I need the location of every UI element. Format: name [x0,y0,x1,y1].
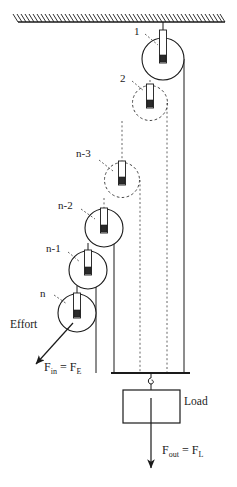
pulley-n-3-leader-line [99,160,113,171]
pulley-n-3-axle-hub [119,177,125,184]
force-in-equals: = F [57,360,76,374]
force-out-equals: = F [179,443,198,457]
effort-force-arrow [36,323,73,364]
effort-label: Effort [10,319,37,331]
pulley-diagram-figure: 1 2 n-3 n-2 n-1 n Effort Fin = FE Load F… [0,0,237,487]
force-e-subscript: E [76,367,81,376]
ceiling-hatching [13,14,225,22]
pulley-system-diagram [0,0,237,487]
pulley-label-2: 2 [120,73,126,84]
force-in-label: Fin = FE [44,361,81,376]
pulley-label-n-3: n-3 [76,148,91,159]
pulley-label-n-1: n-1 [46,243,61,254]
pulley-n-3 [99,160,140,198]
pulley-label-n-2: n-2 [58,200,73,211]
force-out-f: F [162,443,169,457]
pulley-2 [132,81,168,121]
pulley-n-2 [81,208,123,247]
load-label: Load [184,396,208,408]
pulley-n-1-axle-hub [85,267,91,274]
force-l-subscript: L [198,450,203,459]
pulley-n-axle-hub [74,310,80,317]
force-in-f: F [44,360,51,374]
force-out-label: Fout = FL [162,444,203,459]
pulley-n-1 [68,243,107,289]
load-hook [148,373,153,390]
pulley-n [54,286,96,332]
pulley-2-leader-line [132,81,144,91]
pulley-1-axle-hub [160,55,166,62]
pulley-label-1: 1 [134,26,140,37]
pulley-2-axle-hub [147,100,153,107]
pulley-label-n: n [40,288,46,299]
force-out-subscript: out [169,450,179,459]
fixed-support-ceiling [13,14,225,22]
pulley-n-2-axle-hub [101,225,107,232]
pulley-1 [142,22,184,80]
